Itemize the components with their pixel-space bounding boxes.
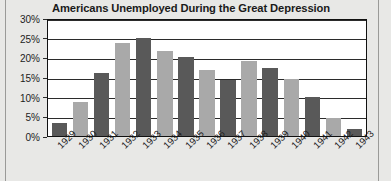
bar-slot <box>133 20 154 136</box>
bar-1937[interactable] <box>220 80 235 136</box>
chart-title: Americans Unemployed During the Great De… <box>8 2 374 14</box>
bar-1935[interactable] <box>178 57 193 136</box>
bar-slot <box>323 20 344 136</box>
bar-1939[interactable] <box>262 68 277 136</box>
y-tick-label: 5% <box>26 112 40 123</box>
y-tick-label: 20% <box>20 53 40 64</box>
bar-slot <box>70 20 91 136</box>
bar-1933[interactable] <box>136 38 151 136</box>
y-tick-label: 30% <box>20 14 40 25</box>
page-column-rule-right <box>378 0 379 181</box>
bar-slot <box>196 20 217 136</box>
bar-slot <box>112 20 133 136</box>
y-tick-label: 15% <box>20 73 40 84</box>
page-column-rule-left <box>5 0 6 181</box>
bar-1938[interactable] <box>241 61 256 136</box>
bar-slot <box>154 20 175 136</box>
bar-1940[interactable] <box>284 79 299 136</box>
bar-1931[interactable] <box>94 73 109 136</box>
bar-slot <box>302 20 323 136</box>
x-axis: 1929193019311932193319341935193619371938… <box>47 137 367 181</box>
plot-area <box>47 19 367 137</box>
bar-1932[interactable] <box>115 43 130 136</box>
bar-slot <box>344 20 365 136</box>
bar-slot <box>91 20 112 136</box>
bar-slot <box>260 20 281 136</box>
chart-figure: Americans Unemployed During the Great De… <box>8 0 374 181</box>
bar-slot <box>218 20 239 136</box>
bar-slot <box>175 20 196 136</box>
bar-1930[interactable] <box>73 102 88 136</box>
bar-series <box>48 20 366 136</box>
y-axis: 0%5%10%15%20%25%30% <box>8 19 44 137</box>
y-tick-label: 25% <box>20 33 40 44</box>
y-tick-label: 0% <box>26 132 40 143</box>
bar-slot <box>239 20 260 136</box>
bar-1936[interactable] <box>199 70 214 136</box>
y-tick-label: 10% <box>20 92 40 103</box>
bar-slot <box>281 20 302 136</box>
bar-slot <box>49 20 70 136</box>
bar-1934[interactable] <box>157 51 172 136</box>
